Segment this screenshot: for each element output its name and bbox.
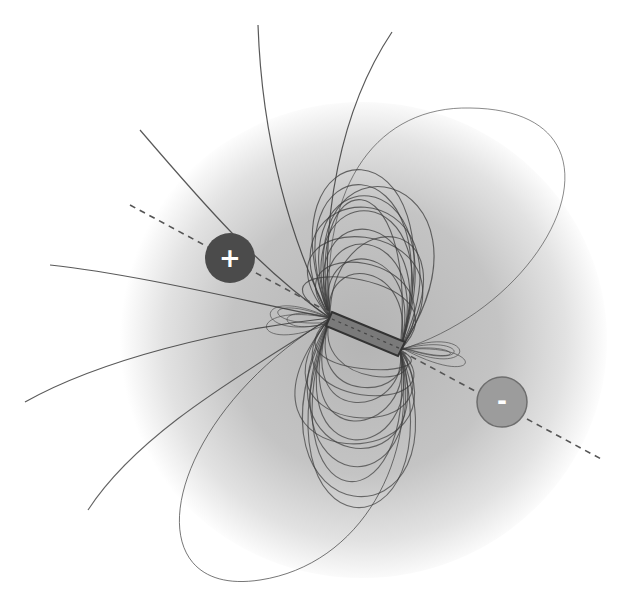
dipole-diagram: + - — [0, 0, 633, 603]
minus-icon: - — [477, 376, 527, 426]
field-canvas — [0, 0, 633, 603]
plus-icon: + — [205, 233, 255, 283]
